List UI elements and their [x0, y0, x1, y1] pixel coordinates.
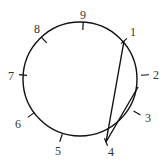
point-label-5: 5 [55, 144, 61, 158]
point-label-1: 1 [130, 25, 136, 39]
tick-mark-8 [41, 37, 46, 43]
point-label-3: 3 [145, 111, 151, 125]
circle-diagram: 912345678 [0, 0, 168, 161]
point-label-8: 8 [34, 22, 40, 36]
point-label-4: 4 [108, 145, 114, 159]
point-label-9: 9 [80, 8, 86, 22]
point-label-2: 2 [153, 68, 159, 82]
point-label-6: 6 [15, 117, 21, 131]
tick-mark-3 [134, 111, 141, 115]
point-label-7: 7 [8, 69, 14, 83]
tick-mark-7 [19, 75, 27, 76]
tick-mark-6 [28, 113, 34, 118]
tick-mark-5 [60, 134, 62, 142]
